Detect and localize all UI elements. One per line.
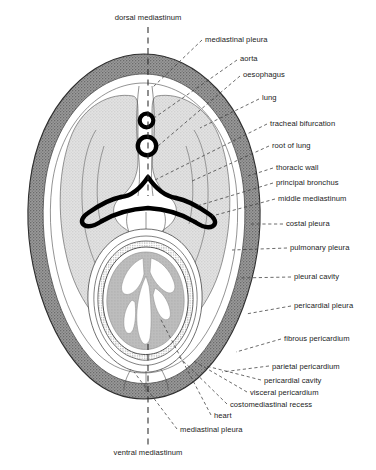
thoracic-cross-section — [28, 54, 260, 399]
label-aorta: aorta — [240, 54, 258, 63]
oesophagus-shape — [138, 137, 156, 155]
label-dorsal-mediastinum: dorsal mediastinum — [115, 13, 182, 22]
label-pericardial-cavity: pericardial cavity — [264, 376, 322, 385]
label-mediastinal-pleura-top: mediastinal pleura — [205, 35, 268, 44]
label-lung: lung — [262, 93, 277, 102]
label-thoracic-wall: thoracic wall — [276, 163, 319, 172]
leader-fibrous-pericardium — [236, 339, 281, 352]
label-costomediastinal-recess: costomediastinal recess — [230, 400, 312, 409]
label-principal-bronchus: principal bronchus — [276, 178, 339, 187]
leader-parietal-pericardium — [222, 366, 269, 372]
label-heart: heart — [214, 411, 232, 420]
label-ventral-mediastinum: ventral mediastinum — [114, 448, 183, 457]
label-parietal-pericardium: parietal pericardium — [272, 362, 340, 371]
label-costal-pleura: costal pleura — [286, 219, 330, 228]
label-pericardial-pleura: pericardial pleura — [294, 301, 354, 310]
label-pleural-cavity: pleural cavity — [294, 272, 339, 281]
leader-pericardial-pleura — [246, 306, 291, 314]
aorta-shape — [140, 114, 154, 128]
label-root-of-lung: root of lung — [272, 141, 311, 150]
label-fibrous-pericardium: fibrous pericardium — [284, 334, 350, 343]
label-tracheal-bifurcation: tracheal bifurcation — [270, 119, 335, 128]
anatomical-diagram: dorsal mediastinum mediastinal pleura ao… — [0, 0, 376, 470]
label-oesophagus: oesophagus — [243, 70, 285, 79]
label-middle-mediastinum: middle mediastinum — [278, 194, 346, 203]
label-pulmonary-pleura: pulmonary pleura — [290, 243, 350, 252]
label-visceral-pericardium: visceral pericardium — [250, 388, 319, 397]
label-mediastinal-pleura-bottom: mediastinal pleura — [180, 425, 243, 434]
